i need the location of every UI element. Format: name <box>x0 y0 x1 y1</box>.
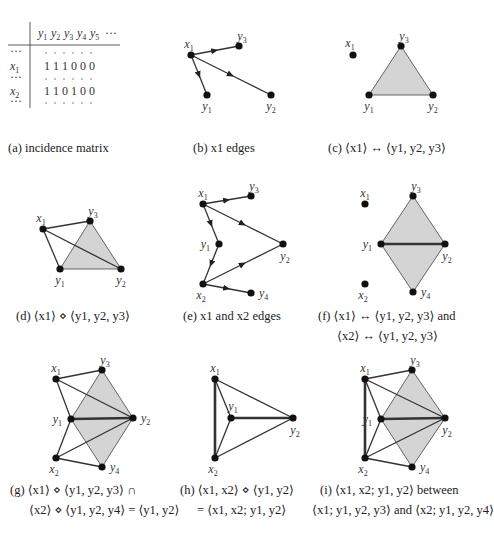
panel-e: x1y3y1y2x2y4 <box>195 179 289 304</box>
matrix-cell: 0 <box>80 59 86 73</box>
node-label-y2: y2 <box>441 423 451 439</box>
directed-edge-x1-y2 <box>203 204 283 244</box>
edge-x1-y3 <box>365 370 412 379</box>
shaded-triangle <box>381 370 445 419</box>
node-label-x1: x1 <box>344 36 354 52</box>
matrix-dot <box>90 52 91 53</box>
thick-edge-y1-y2 <box>381 418 445 419</box>
node-label-x1: x1 <box>183 37 193 53</box>
node-label-y1: y1 <box>362 237 372 253</box>
edge-x2-y4 <box>56 458 102 467</box>
node-label-y3: y3 <box>410 179 420 195</box>
directed-edge-x2-y2 <box>203 244 283 284</box>
matrix-cell: 1 <box>53 84 59 98</box>
edge-x1-y1 <box>43 229 60 269</box>
node-y1 <box>56 265 63 272</box>
node-x1 <box>349 51 356 58</box>
caption-a: (a) incidence matrix <box>8 140 109 156</box>
matrix-dot <box>45 52 46 53</box>
node-y4 <box>98 463 105 470</box>
matrix-header-y5: y5 <box>89 26 99 42</box>
node-y4 <box>247 289 254 296</box>
matrix-dot <box>81 52 82 53</box>
panel-h: x1y1y2x2 <box>207 361 299 478</box>
node-label-x1: x1 <box>209 361 219 377</box>
caption-i-line1: (i) ⟨x1, x2; y1, y2⟩ between <box>320 482 459 498</box>
node-label-y1: y1 <box>200 237 210 253</box>
edge-x2-y2 <box>215 418 293 458</box>
node-y1 <box>215 240 222 247</box>
node-y2 <box>129 414 136 421</box>
caption-h-line1: (h) ⟨x1, x2⟩ ⋄ ⟨y1, y2⟩ <box>180 482 294 498</box>
matrix-cell: 1 <box>44 84 50 98</box>
shaded-triangle <box>71 370 133 419</box>
node-label-x1: x1 <box>359 186 369 202</box>
node-y2 <box>441 414 448 421</box>
matrix-header-y3: y3 <box>63 26 73 42</box>
node-label-y1: y1 <box>52 412 62 428</box>
edge-x2-y4 <box>365 458 412 467</box>
node-y1 <box>67 415 74 422</box>
node-y3 <box>408 366 415 373</box>
node-label-y4: y4 <box>258 286 268 302</box>
node-y4 <box>408 463 415 470</box>
node-label-y2: y2 <box>115 273 125 289</box>
caption-e: (e) x1 and x2 edges <box>183 308 281 324</box>
matrix-header-ellipsis: ··· <box>105 26 117 40</box>
matrix-cell: 0 <box>71 59 77 73</box>
matrix-cell: 0 <box>89 59 95 73</box>
matrix-dot <box>45 78 46 79</box>
shaded-triangle <box>60 221 121 269</box>
node-label-y3: y3 <box>87 204 97 220</box>
directed-edge-x1-y3 <box>203 196 251 204</box>
panel-g: x1y3y1y2x2y4 <box>48 353 150 478</box>
node-label-y3: y3 <box>398 29 408 45</box>
edge-x1-y3 <box>43 221 90 229</box>
node-y3 <box>235 42 242 49</box>
node-label-y1: y1 <box>201 99 211 115</box>
shaded-triangle <box>381 244 445 292</box>
caption-c: (c) ⟨x1⟩ ↔ ⟨y1, y2, y3⟩ <box>328 140 446 156</box>
node-y2 <box>441 240 448 247</box>
edge-x2-y1 <box>215 418 231 458</box>
shaded-triangle <box>71 418 133 467</box>
panel-c: x1y3y1y2 <box>344 29 437 115</box>
caption-f-line1: (f) ⟨x1⟩ ↔ ⟨y1, y2, y3⟩ and <box>318 308 456 324</box>
directed-edge-x1-y3 <box>191 46 239 55</box>
shaded-triangle <box>381 196 445 244</box>
matrix-cell: 1 <box>71 84 77 98</box>
matrix-header-y2: y2 <box>50 26 60 42</box>
graph-panels: x1y3y1y2x1y3y1y2x1y3y1y2x1y3y1y2x2y4x1y3… <box>35 29 451 478</box>
node-label-x2: x2 <box>357 462 367 478</box>
directed-edge-x1-y1 <box>191 55 207 95</box>
node-y1 <box>377 240 384 247</box>
caption-d: (d) ⟨x1⟩ ⋄ ⟨y1, y2, y3⟩ <box>16 308 130 324</box>
node-label-x2: x2 <box>48 462 58 478</box>
node-x2 <box>52 454 59 461</box>
node-y1 <box>203 91 210 98</box>
edge-x1-y3 <box>56 370 102 379</box>
matrix-dot <box>72 102 73 103</box>
node-label-y4: y4 <box>419 460 429 476</box>
panel-d: x1y3y1y2 <box>35 204 125 289</box>
matrix-dot <box>90 78 91 79</box>
node-x2 <box>361 280 368 287</box>
matrix-header-y1: y1 <box>37 26 47 42</box>
matrix-dot <box>54 52 55 53</box>
incidence-matrix: y1y2y3y4y5··· ···x1111000···x2110100··· <box>8 22 120 108</box>
node-label-x2: x2 <box>207 462 217 478</box>
caption-f-line2: ⟨x2⟩ ↔ ⟨y1, y2, y3⟩ <box>337 328 438 344</box>
node-label-y4: y4 <box>109 460 119 476</box>
node-label-x2: x2 <box>195 288 205 304</box>
node-label-y2: y2 <box>140 411 150 427</box>
panel-b: x1y3y1y2 <box>183 29 275 115</box>
caption-h-line2: = ⟨x1, x2; y1, y2⟩ <box>197 502 286 518</box>
node-label-x1: x1 <box>359 361 369 377</box>
matrix-dot <box>45 102 46 103</box>
node-label-y3: y3 <box>409 353 419 369</box>
node-label-y1: y1 <box>362 412 372 428</box>
node-label-x1: x1 <box>197 186 207 202</box>
caption-g-line2: ⟨x2⟩ ⋄ ⟨y1, y2, y4⟩ = ⟨y1, y2⟩ <box>29 502 179 518</box>
matrix-dot <box>90 102 91 103</box>
